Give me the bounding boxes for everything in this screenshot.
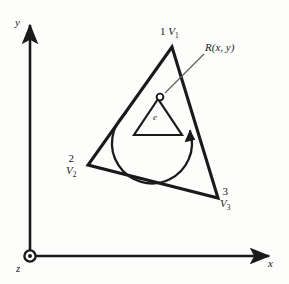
- node-symbol-2-row: V2: [66, 165, 76, 179]
- y-axis-label: y: [15, 17, 20, 29]
- x-axis-label: x: [268, 258, 273, 270]
- node-subscript-1: 1: [175, 31, 179, 40]
- node-label-v1: 1 V1: [160, 26, 179, 40]
- node-number-3: 3: [222, 185, 228, 197]
- node-symbol-3-row: V3: [220, 198, 230, 212]
- node-subscript-2: 2: [73, 170, 77, 179]
- z-axis-origin-icon: [24, 250, 35, 261]
- node-label-v3: 3 V3: [220, 186, 230, 212]
- rotation-arrow-icon: [112, 113, 195, 183]
- element-label-triangle: [134, 99, 182, 135]
- node-symbol-v1: V: [168, 25, 175, 37]
- z-axis-label: z: [16, 263, 20, 275]
- node-symbol-v3: V: [220, 197, 227, 209]
- node-subscript-3: 3: [227, 203, 231, 212]
- diagram-canvas: [0, 0, 289, 284]
- node-label-v2: 2 V2: [66, 153, 76, 179]
- point-r-marker: [157, 94, 164, 101]
- node-symbol-v2: V: [66, 164, 73, 176]
- element-label-e: e: [153, 113, 157, 122]
- point-r-label: R(x, y): [205, 42, 234, 54]
- figure-container: y x z 1 V1 2 V2 3 V3 R(x, y) e: [0, 0, 289, 284]
- element-triangle: [88, 47, 218, 198]
- node-number-2: 2: [68, 152, 74, 164]
